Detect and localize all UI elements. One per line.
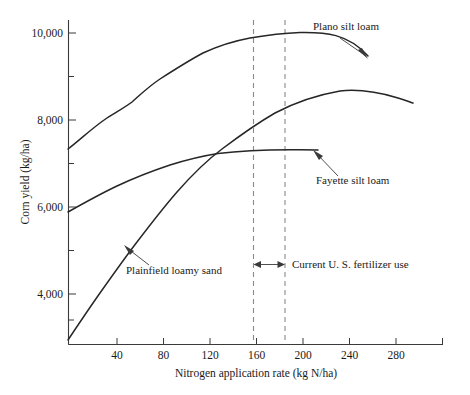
x-tick-label-200: 200 <box>294 349 312 361</box>
x-axis-title: Nitrogen application rate (kg N/ha) <box>175 367 337 380</box>
annotation-label-fayette-silt-loam: Fayette silt loam <box>316 174 390 186</box>
y-axis-title: Corn yield (kg/ha) <box>19 139 32 224</box>
y-tick-label-6000: 6,000 <box>37 201 63 214</box>
chart-figure: 10,000 8,000 6,000 4,000 40 80 120 160 2… <box>0 0 470 395</box>
annotation-label-plano-silt-loam: Plano silt loam <box>313 20 379 32</box>
x-tick-label-160: 160 <box>248 349 266 361</box>
x-tick-label-40: 40 <box>111 349 123 361</box>
annotation-label-plainfield-loamy-sand: Plainfield loamy sand <box>126 264 222 276</box>
x-tick-label-120: 120 <box>201 349 219 361</box>
corn-yield-nitrogen-chart: 10,000 8,000 6,000 4,000 40 80 120 160 2… <box>0 0 470 395</box>
span-marker-label: Current U. S. fertilizer use <box>292 258 409 270</box>
y-tick-label-4000: 4,000 <box>37 288 63 301</box>
x-tick-label-80: 80 <box>158 349 170 361</box>
y-tick-label-8000: 8,000 <box>37 114 63 127</box>
x-tick-label-280: 280 <box>387 349 405 361</box>
x-tick-label-240: 240 <box>341 349 359 361</box>
y-tick-label-10000: 10,000 <box>31 27 63 40</box>
